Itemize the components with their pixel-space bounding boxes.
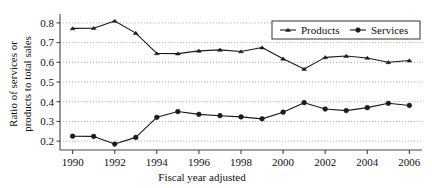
data-point-marker	[218, 113, 223, 118]
y-tick-label: 0.8	[40, 17, 54, 29]
data-point-marker	[154, 115, 159, 120]
chart-legend[interactable]: ProductsServices	[272, 21, 420, 39]
line-chart: 0.20.30.40.50.60.70.8 199019921994199619…	[0, 0, 432, 188]
x-tick-label: 2000	[272, 156, 295, 168]
y-tick-label: 0.4	[40, 96, 54, 108]
data-point-marker	[70, 134, 75, 139]
y-tick-label: 0.6	[40, 56, 54, 68]
data-point-marker	[197, 112, 202, 117]
x-tick-label: 1998	[230, 156, 253, 168]
y-axis-title-line2: products to total sales	[21, 36, 33, 132]
data-point-marker	[112, 142, 117, 147]
x-axis-title: Fiscal year adjusted	[158, 171, 246, 183]
y-axis-title-line1: Ratio of services or	[7, 41, 19, 127]
data-point-marker	[356, 28, 361, 33]
data-point-marker	[281, 110, 286, 115]
data-point-marker	[386, 101, 391, 106]
x-axis-tick-labels: 199019921994199619982000200220042006	[62, 156, 421, 168]
data-point-marker	[91, 134, 96, 139]
x-tick-label: 2006	[398, 156, 421, 168]
data-point-marker	[344, 108, 349, 113]
legend-label: Products	[301, 24, 340, 36]
chart-figure: 0.20.30.40.50.60.70.8 199019921994199619…	[0, 0, 432, 188]
y-tick-label: 0.3	[40, 115, 54, 127]
y-tick-label: 0.7	[40, 36, 54, 48]
x-tick-label: 1990	[62, 156, 85, 168]
x-tick-label: 1992	[104, 156, 126, 168]
data-point-marker	[323, 107, 328, 112]
data-point-marker	[133, 135, 138, 140]
data-point-marker	[407, 103, 412, 108]
data-point-marker	[302, 100, 307, 105]
data-point-marker	[239, 115, 244, 120]
y-tick-label: 0.2	[40, 135, 54, 147]
legend-label: Services	[371, 24, 408, 36]
data-point-marker	[365, 105, 370, 110]
x-tick-label: 2004	[356, 156, 379, 168]
data-point-marker	[260, 116, 265, 121]
x-tick-label: 1994	[146, 156, 169, 168]
x-tick-label: 2002	[314, 156, 336, 168]
y-tick-label: 0.5	[40, 76, 54, 88]
x-tick-label: 1996	[188, 156, 211, 168]
data-point-marker	[175, 109, 180, 114]
